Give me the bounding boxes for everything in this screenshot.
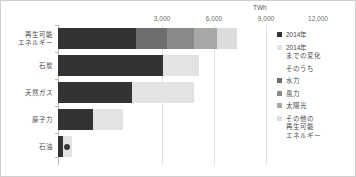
category-label-oil: 石油 bbox=[39, 142, 53, 151]
legend-item-change[interactable]: 2014年 までの変化 bbox=[277, 44, 355, 61]
legend-item-2014[interactable]: 2014年 bbox=[277, 31, 355, 40]
category-label-natural-gas: 天然ガス bbox=[25, 88, 53, 97]
legend-group-heading: そのうち bbox=[277, 65, 355, 74]
segment-2014 bbox=[58, 109, 93, 130]
legend-label-2014: 2014年 bbox=[286, 31, 307, 40]
legend-item-wind[interactable]: 風力 bbox=[277, 90, 355, 99]
category-label-coal-line1: 石炭 bbox=[39, 61, 53, 68]
chart-figure: TWh 3,000 6,000 9,000 12,000 15,000 再生可能… bbox=[0, 0, 356, 177]
bar-row-nuclear: 原子力 bbox=[58, 109, 266, 130]
legend-swatch-2014-icon bbox=[277, 32, 282, 37]
y-tick-coal bbox=[55, 52, 58, 53]
legend-group-heading-label: そのうち bbox=[286, 65, 314, 74]
bar-row-coal: 石炭 bbox=[58, 55, 266, 76]
category-label-renewable: 再生可能 エネルギー bbox=[18, 30, 53, 47]
y-tick-oil bbox=[55, 133, 58, 134]
legend-item-other-renewable[interactable]: その他の 再生可能 エネルギー bbox=[277, 115, 355, 141]
segment-hydro bbox=[136, 28, 167, 49]
segment-solar bbox=[194, 28, 217, 49]
plot-area: 再生可能 エネルギー 石炭 bbox=[58, 25, 266, 165]
segment-2014 bbox=[58, 55, 163, 76]
bar-row-renewable: 再生可能 エネルギー bbox=[58, 28, 266, 49]
legend-swatch-wind-icon bbox=[277, 91, 282, 96]
x-tick-label-3000: 3,000 bbox=[154, 15, 170, 22]
y-tick-renewable bbox=[55, 25, 58, 26]
segment-wind bbox=[167, 28, 194, 49]
stacked-bar-renewable bbox=[58, 28, 237, 49]
segment-change bbox=[132, 82, 194, 103]
segment-2014 bbox=[58, 28, 136, 49]
y-tick-axis-end bbox=[55, 157, 58, 158]
x-tick-label-6000: 6,000 bbox=[206, 15, 222, 22]
legend-label-change: 2014年 までの変化 bbox=[286, 44, 321, 61]
legend-label-hydro: 水力 bbox=[286, 77, 300, 86]
bar-row-oil: 石油 bbox=[58, 136, 266, 157]
negative-change-marker bbox=[64, 144, 70, 150]
y-tick-natural-gas bbox=[55, 79, 58, 80]
stacked-bar-natural-gas bbox=[58, 82, 194, 103]
segment-2014 bbox=[58, 82, 132, 103]
category-label-natural-gas-line1: 天然ガス bbox=[25, 88, 53, 95]
chart-legend: 2014年 2014年 までの変化 そのうち 水力 風力 太陽光 その他の 再生… bbox=[277, 31, 355, 144]
legend-swatch-solar-icon bbox=[277, 103, 282, 108]
axis-unit-caption: TWh bbox=[253, 4, 267, 11]
segment-other-renewable bbox=[217, 28, 237, 49]
gridline-9000 bbox=[266, 25, 267, 165]
legend-item-hydro[interactable]: 水力 bbox=[277, 77, 355, 86]
y-tick-nuclear bbox=[55, 106, 58, 107]
stacked-bar-coal bbox=[58, 55, 199, 76]
legend-item-solar[interactable]: 太陽光 bbox=[277, 102, 355, 111]
category-label-oil-line1: 石油 bbox=[39, 142, 53, 149]
category-label-renewable-line2: エネルギー bbox=[18, 39, 53, 46]
legend-label-wind: 風力 bbox=[286, 90, 300, 99]
legend-swatch-change-icon bbox=[277, 45, 282, 50]
category-label-renewable-line1: 再生可能 bbox=[25, 30, 53, 37]
stacked-bar-nuclear bbox=[58, 109, 123, 130]
legend-swatch-other-renewable-icon bbox=[277, 116, 282, 121]
x-tick-label-12000: 12,000 bbox=[308, 15, 328, 22]
bar-row-natural-gas: 天然ガス bbox=[58, 82, 266, 103]
category-label-coal: 石炭 bbox=[39, 61, 53, 70]
category-label-nuclear-line1: 原子力 bbox=[32, 115, 53, 122]
legend-swatch-hydro-icon bbox=[277, 78, 282, 83]
category-label-nuclear: 原子力 bbox=[32, 115, 53, 124]
x-tick-label-9000: 9,000 bbox=[258, 15, 274, 22]
segment-change bbox=[163, 55, 199, 76]
legend-label-other-renewable: その他の 再生可能 エネルギー bbox=[286, 115, 321, 141]
segment-change bbox=[93, 109, 123, 130]
legend-label-solar: 太陽光 bbox=[286, 102, 307, 111]
